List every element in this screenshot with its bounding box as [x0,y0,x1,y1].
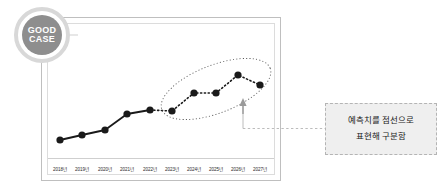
x-tick-label: 2021년 [120,166,134,172]
data-point-marker [101,126,108,133]
annotation-line1: 예측치를 점선으로 [348,113,414,129]
data-point-marker [234,71,241,78]
data-point-marker [190,89,197,96]
x-tick-label: 2022년 [143,166,157,172]
annotation-line2: 표현해 구분함 [356,129,406,145]
data-point-marker [168,107,175,114]
x-tick-label: 2024년 [187,166,201,172]
x-tick-label: 2023년 [165,166,179,172]
slide-canvas: 2018년 2019년 2020년 2021년 2022년 2023년 2024… [0,0,444,188]
good-case-badge-line2: CASE [29,35,55,44]
data-point-marker [256,81,263,88]
x-tick-label: 2027년 [253,166,267,172]
data-point-marker [212,89,219,96]
x-tick-label: 2018년 [53,166,67,172]
data-point-marker [123,110,130,117]
x-tick-label: 2025년 [209,166,223,172]
annotation-callout: 예측치를 점선으로 표현해 구분함 [325,103,437,155]
x-tick-label: 2019년 [75,166,89,172]
data-point-marker [146,106,153,113]
chart-inner-frame [48,24,275,175]
good-case-badge-inner: GOOD CASE [22,15,62,55]
x-tick-label: 2020년 [98,166,112,172]
data-point-marker [56,136,63,143]
good-case-badge: GOOD CASE [14,7,70,63]
data-point-marker [78,131,85,138]
x-tick-label: 2026년 [231,166,245,172]
